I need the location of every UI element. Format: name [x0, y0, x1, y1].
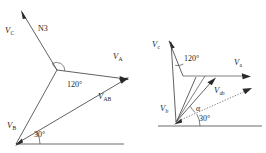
- left-angle-120-label: 120°: [67, 81, 82, 89]
- right-angle-alpha-arc: [190, 106, 195, 112]
- right-vc-upper-segment: [169, 41, 183, 76]
- right-angle-30-label: 30°: [199, 115, 210, 123]
- right-va-arrow-head: [242, 73, 251, 79]
- right-vc-label: Vc: [152, 40, 160, 49]
- figure-root: VC N3 VA 120° VAB VB 30° Vc 120° Va Vab …: [0, 0, 266, 153]
- right-vab-label: Vab: [214, 86, 224, 95]
- left-va-phasor-line: [57, 70, 126, 79]
- right-diagram-graphics: [158, 40, 262, 126]
- right-vc-phasor-line: [171, 42, 176, 122]
- right-dotted-arrow-head: [242, 88, 252, 94]
- right-vb-label: Vb: [160, 104, 168, 113]
- left-vb-arrow-head: [15, 138, 23, 146]
- left-vc-label: VC: [5, 26, 14, 35]
- right-angle-120-arc: [175, 64, 183, 66]
- left-node-label: N3: [38, 25, 48, 33]
- right-angle-120-label: 120°: [184, 55, 199, 63]
- left-va-label: VA: [113, 52, 122, 61]
- left-vab-label: VAB: [98, 92, 111, 101]
- right-angle-alpha-label: α: [196, 105, 200, 113]
- left-angle-30-label: 30°: [34, 131, 45, 139]
- left-vertex-corner-mark: [53, 64, 58, 70]
- right-va-label: Va: [234, 58, 242, 67]
- left-vc-phasor-line: [22, 12, 57, 70]
- right-vb-phasor-line: [176, 77, 196, 123]
- left-vab-arrow-head: [119, 78, 129, 84]
- left-vc-arrow-head: [21, 10, 26, 19]
- left-diagram-graphics: [15, 10, 129, 146]
- right-dotted-resultant-line: [176, 90, 248, 122]
- left-vb-label: VB: [7, 121, 16, 130]
